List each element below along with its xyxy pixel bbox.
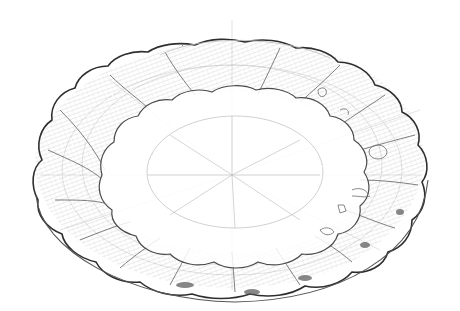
- inner-rim: [99, 86, 369, 268]
- bowl-sketch: [0, 0, 460, 311]
